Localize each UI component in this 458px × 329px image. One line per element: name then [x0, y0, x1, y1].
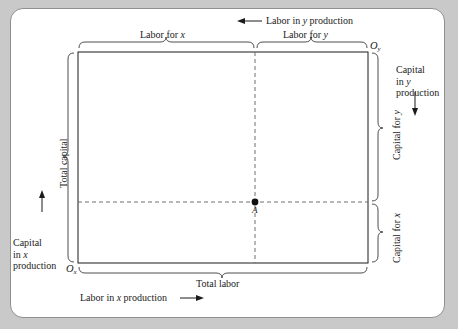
arrow-up-icon: [39, 190, 45, 212]
brace-total-labor: [79, 267, 367, 278]
arrow-right-icon: [180, 295, 204, 301]
brace-capital-for-y: [372, 53, 383, 201]
label-labor-for-x: Labor for x: [140, 29, 185, 41]
label-capital-in-x-production: Capitalin xproduction: [13, 225, 56, 272]
brace-capital-for-x: [372, 204, 383, 262]
label-labor-in-y-production: Labor in y production: [266, 15, 353, 27]
origin-label-ox: Ox: [66, 263, 77, 275]
label-point-a: A: [252, 205, 258, 216]
origin-label-oy: Oy: [370, 40, 381, 52]
arrow-left-icon: [237, 18, 262, 24]
label-labor-in-x-production: Labor in x production: [80, 292, 167, 304]
label-capital-for-y: Capital for y: [391, 110, 403, 160]
edgeworth-box-rect: [78, 52, 368, 263]
label-capital-in-y-production: Capitalin yproduction: [396, 52, 439, 99]
label-capital-for-x: Capital for x: [391, 213, 403, 263]
label-total-labor: Total labor: [196, 278, 239, 290]
label-labor-for-y: Labor for y: [283, 29, 328, 41]
label-total-capital: Total capital: [58, 138, 70, 188]
